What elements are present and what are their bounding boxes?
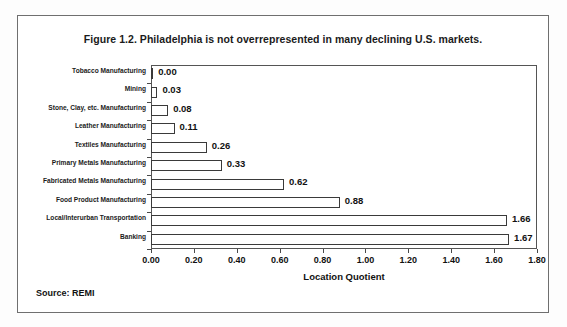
- bar: [151, 197, 340, 208]
- bar-row: Leather Manufacturing0.11: [151, 120, 537, 138]
- bar-row: Food Product Manufacturing0.88: [151, 194, 537, 212]
- category-label: Primary Metals Manufacturing: [52, 159, 146, 166]
- bar-row: Tobacco Manufacturing0.00: [151, 65, 537, 83]
- x-axis-tick: [323, 249, 324, 253]
- x-axis-tick-label: 0.40: [228, 255, 246, 265]
- bar-value-label: 0.62: [289, 176, 308, 187]
- x-axis-tick: [237, 249, 238, 253]
- category-label: Mining: [125, 85, 146, 92]
- bar-value-label: 0.26: [212, 140, 231, 151]
- page-title: Figure 1.2. Philadelphia is not overrepr…: [18, 33, 548, 45]
- x-axis-tick-label: 1.60: [485, 255, 503, 265]
- category-label: Banking: [120, 233, 146, 240]
- x-axis-tick-label: 0.20: [185, 255, 203, 265]
- source-note: Source: REMI: [36, 288, 95, 298]
- x-axis-tick-label: 1.20: [400, 255, 418, 265]
- category-label: Fabricated Metals Manufacturing: [43, 177, 146, 184]
- x-axis-label: Location Quotient: [151, 271, 537, 282]
- bar-value-label: 0.03: [162, 84, 181, 95]
- bar: [151, 105, 168, 116]
- bar: [151, 87, 157, 98]
- bar-value-label: 0.11: [180, 121, 198, 132]
- bar-value-label: 0.08: [173, 103, 192, 114]
- category-label: Stone, Clay, etc. Manufacturing: [48, 104, 146, 111]
- bar-value-label: 1.67: [514, 232, 533, 243]
- x-axis-tick: [365, 249, 366, 253]
- category-label: Textiles Manufacturing: [75, 141, 146, 148]
- bar-row: Textiles Manufacturing0.26: [151, 139, 537, 157]
- category-label: Leather Manufacturing: [75, 122, 146, 129]
- x-axis-tick: [537, 249, 538, 253]
- bar-value-label: 1.66: [512, 213, 531, 224]
- bar: [151, 179, 284, 190]
- category-label: Tobacco Manufacturing: [72, 67, 146, 74]
- x-axis-tick: [408, 249, 409, 253]
- bar-row: Local/Interurban Transportation1.66: [151, 212, 537, 230]
- bar: [151, 68, 153, 79]
- figure-page: Figure 1.2. Philadelphia is not overrepr…: [0, 0, 567, 327]
- x-axis-tick: [451, 249, 452, 253]
- bar-value-label: 0.88: [345, 195, 364, 206]
- category-label: Food Product Manufacturing: [56, 196, 146, 203]
- x-axis-tick: [194, 249, 195, 253]
- category-label: Local/Interurban Transportation: [46, 214, 146, 221]
- x-axis-tick-label: 0.80: [314, 255, 332, 265]
- bar: [151, 123, 175, 134]
- x-axis-tick-label: 0.00: [142, 255, 160, 265]
- figure-frame: Figure 1.2. Philadelphia is not overrepr…: [17, 15, 549, 313]
- x-axis-tick-label: 0.60: [271, 255, 289, 265]
- bar-chart: Tobacco Manufacturing0.00Mining0.03Stone…: [151, 65, 537, 249]
- bar-row: Primary Metals Manufacturing0.33: [151, 157, 537, 175]
- bar-row: Fabricated Metals Manufacturing0.62: [151, 175, 537, 193]
- bar-row: Banking1.67: [151, 231, 537, 249]
- bar-value-label: 0.33: [227, 158, 246, 169]
- bar: [151, 234, 509, 245]
- bar-row: Mining0.03: [151, 83, 537, 101]
- x-axis-tick-label: 1.00: [357, 255, 375, 265]
- x-axis-tick: [280, 249, 281, 253]
- x-axis-tick-label: 1.40: [442, 255, 460, 265]
- bar: [151, 215, 507, 226]
- x-axis-tick: [494, 249, 495, 253]
- x-axis-tick-label: 1.80: [528, 255, 546, 265]
- bar-value-label: 0.00: [158, 66, 177, 77]
- x-axis-tick: [151, 249, 152, 253]
- bar: [151, 160, 222, 171]
- bar-row: Stone, Clay, etc. Manufacturing0.08: [151, 102, 537, 120]
- bar: [151, 142, 207, 153]
